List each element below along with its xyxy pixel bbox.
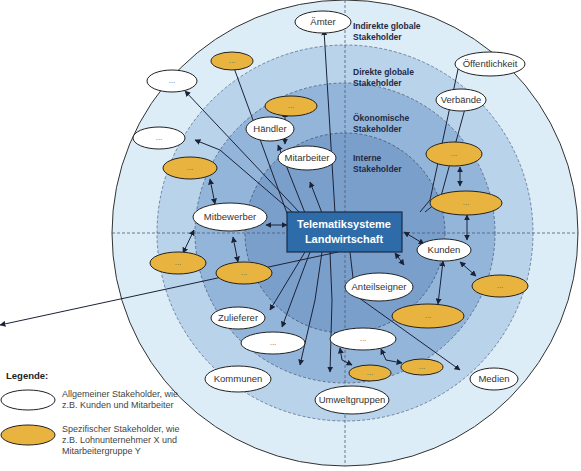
node-specific: ... [265, 96, 317, 116]
legend-title: Legende: [6, 370, 48, 381]
svg-text:...: ... [425, 311, 432, 320]
svg-text:...: ... [169, 76, 176, 85]
svg-text:Stakeholder: Stakeholder [353, 164, 402, 174]
svg-text:...: ... [367, 368, 374, 377]
node-anteilseigner: Anteilseigner [345, 273, 413, 301]
node-general-unnamed: ... [330, 328, 396, 350]
svg-text:...: ... [463, 198, 470, 207]
svg-text:...: ... [419, 362, 426, 371]
node-specific: ... [472, 275, 528, 297]
svg-text:Umweltgruppen: Umweltgruppen [319, 394, 386, 405]
svg-text:Stakeholder: Stakeholder [353, 124, 402, 134]
svg-text:...: ... [175, 258, 182, 267]
svg-text:Landwirtschaft: Landwirtschaft [305, 233, 384, 245]
node-zulieferer: Zulieferer [211, 307, 265, 329]
node-specific: ... [426, 142, 482, 166]
legend-shapes [0, 384, 60, 464]
node-specific: ... [150, 252, 206, 274]
node-specific: ... [430, 191, 502, 215]
svg-text:...: ... [451, 149, 458, 158]
legend-specific-shape [1, 425, 55, 445]
svg-text:...: ... [497, 281, 504, 290]
legend-specific-text: Spezifischer Stakeholder, wie z.B. Lohnu… [62, 424, 192, 457]
svg-text:Interne: Interne [353, 153, 382, 163]
node-specific: ... [216, 262, 272, 284]
svg-text:...: ... [288, 101, 295, 110]
svg-text:...: ... [229, 56, 236, 65]
node-specific: ... [211, 52, 253, 70]
svg-text:Mitarbeiter: Mitarbeiter [285, 152, 330, 163]
node-verbaende: Verbände [436, 89, 486, 111]
node-oeffentlichkeit: Öffentlichkeit [455, 52, 525, 76]
node-general-unnamed: ... [147, 70, 197, 92]
svg-text:...: ... [270, 338, 277, 347]
svg-text:Anteilseigner: Anteilseigner [352, 281, 407, 292]
svg-text:Kunden: Kunden [428, 244, 461, 255]
svg-text:...: ... [241, 268, 248, 277]
node-mitarbeiter: Mitarbeiter [278, 146, 336, 170]
svg-text:Mitbewerber: Mitbewerber [204, 211, 256, 222]
svg-text:Zulieferer: Zulieferer [218, 312, 258, 323]
svg-text:Verbände: Verbände [441, 94, 482, 105]
node-aemter: Ämter [295, 11, 351, 33]
node-specific: ... [401, 359, 443, 375]
ring-label-economic: Ökonomische Stakeholder [353, 113, 409, 134]
node-kunden: Kunden [417, 239, 471, 261]
node-specific: ... [163, 157, 217, 179]
node-specific: ... [392, 304, 464, 328]
node-mitbewerber: Mitbewerber [193, 203, 267, 231]
svg-text:...: ... [156, 133, 163, 142]
svg-text:Telematiksysteme: Telematiksysteme [297, 218, 391, 230]
node-haendler: Händler [246, 117, 294, 141]
node-general-unnamed: ... [133, 127, 185, 149]
svg-text:Ökonomische: Ökonomische [353, 113, 409, 123]
center-system-box: Telematiksysteme Landwirtschaft [287, 212, 402, 252]
svg-text:Händler: Händler [253, 123, 286, 134]
node-general-unnamed: ... [241, 332, 305, 354]
legend-general-text: Allgemeiner Stakeholder, wie z.B. Kunden… [62, 389, 192, 411]
svg-text:Stakeholder: Stakeholder [353, 78, 402, 88]
node-medien: Medien [470, 368, 518, 390]
node-specific: ... [349, 365, 391, 381]
svg-text:Ämter: Ämter [310, 16, 335, 27]
svg-text:Medien: Medien [478, 373, 509, 384]
svg-text:Kommunen: Kommunen [214, 373, 263, 384]
node-kommunen: Kommunen [205, 366, 271, 392]
svg-text:Öffentlichkeit: Öffentlichkeit [463, 58, 518, 69]
legend-general-shape [1, 390, 55, 410]
svg-text:Stakeholder: Stakeholder [353, 32, 402, 42]
svg-text:...: ... [187, 163, 194, 172]
node-umweltgruppen: Umweltgruppen [315, 386, 389, 414]
svg-text:Indirekte globale: Indirekte globale [353, 21, 421, 31]
svg-text:...: ... [360, 334, 367, 343]
svg-text:Direkte globale: Direkte globale [353, 67, 414, 77]
